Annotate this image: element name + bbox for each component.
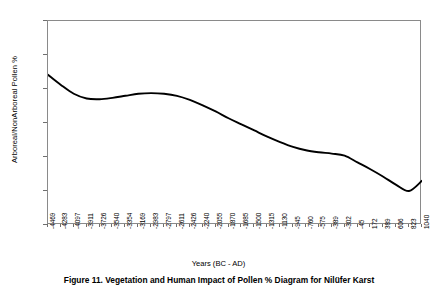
x-tick-label: -2983 <box>153 213 159 229</box>
x-tick-mark <box>176 224 177 227</box>
x-tick-mark <box>279 224 280 227</box>
x-tick-label: -2797 <box>166 213 172 229</box>
x-tick-mark <box>292 224 293 227</box>
figure-caption: Figure 11. Vegetation and Human Impact o… <box>14 276 424 285</box>
x-tick-label: 606 <box>398 218 404 229</box>
x-tick-label: -2240 <box>204 213 210 229</box>
x-tick-label: -1685 <box>243 213 249 229</box>
x-tick-label: -2611 <box>179 213 185 229</box>
x-tick-mark <box>421 224 422 227</box>
x-tick-label: -4097 <box>75 213 81 229</box>
x-tick-label: -389 <box>333 216 339 229</box>
x-tick-label: -1500 <box>256 213 262 229</box>
x-tick-label: -3354 <box>127 213 133 229</box>
x-tick-label: 172 <box>372 218 378 229</box>
x-tick-label: -945 <box>295 216 301 229</box>
x-tick-mark <box>47 224 48 227</box>
plot-area <box>47 20 421 224</box>
x-tick-mark <box>163 224 164 227</box>
x-tick-label: -1870 <box>230 213 236 229</box>
x-tick-label: 389 <box>385 218 391 229</box>
x-tick-mark <box>305 224 306 227</box>
pollen-line-chart-figure: Arboreal/NonArboreal Pollen % 0510152025… <box>0 0 437 285</box>
x-tick-label: -1315 <box>269 213 275 229</box>
x-tick-label: -302 <box>346 216 352 229</box>
pollen-curve-path <box>48 75 422 191</box>
x-tick-label: -3911 <box>88 213 94 229</box>
x-tick-label: -1130 <box>282 213 288 229</box>
x-tick-label: -3726 <box>101 213 107 229</box>
x-tick-label: -3169 <box>140 213 146 229</box>
x-tick-label: -2055 <box>217 213 223 229</box>
x-axis-title: Years (BC - AD) <box>0 259 437 268</box>
x-tick-label: -45 <box>359 220 365 229</box>
x-tick-label: -575 <box>320 216 326 229</box>
x-tick-label: -2426 <box>191 213 197 229</box>
x-tick-label: 823 <box>411 218 417 229</box>
x-tick-label: 1040 <box>424 215 430 229</box>
y-axis-title: Arboreal/NonArboreal Pollen % <box>10 10 19 210</box>
x-tick-label: -760 <box>308 216 314 229</box>
x-tick-mark <box>408 224 409 227</box>
x-tick-label: -4283 <box>62 213 68 229</box>
x-tick-label: -3540 <box>114 213 120 229</box>
pollen-curve-svg <box>48 21 422 225</box>
x-tick-label: -4469 <box>50 213 56 229</box>
